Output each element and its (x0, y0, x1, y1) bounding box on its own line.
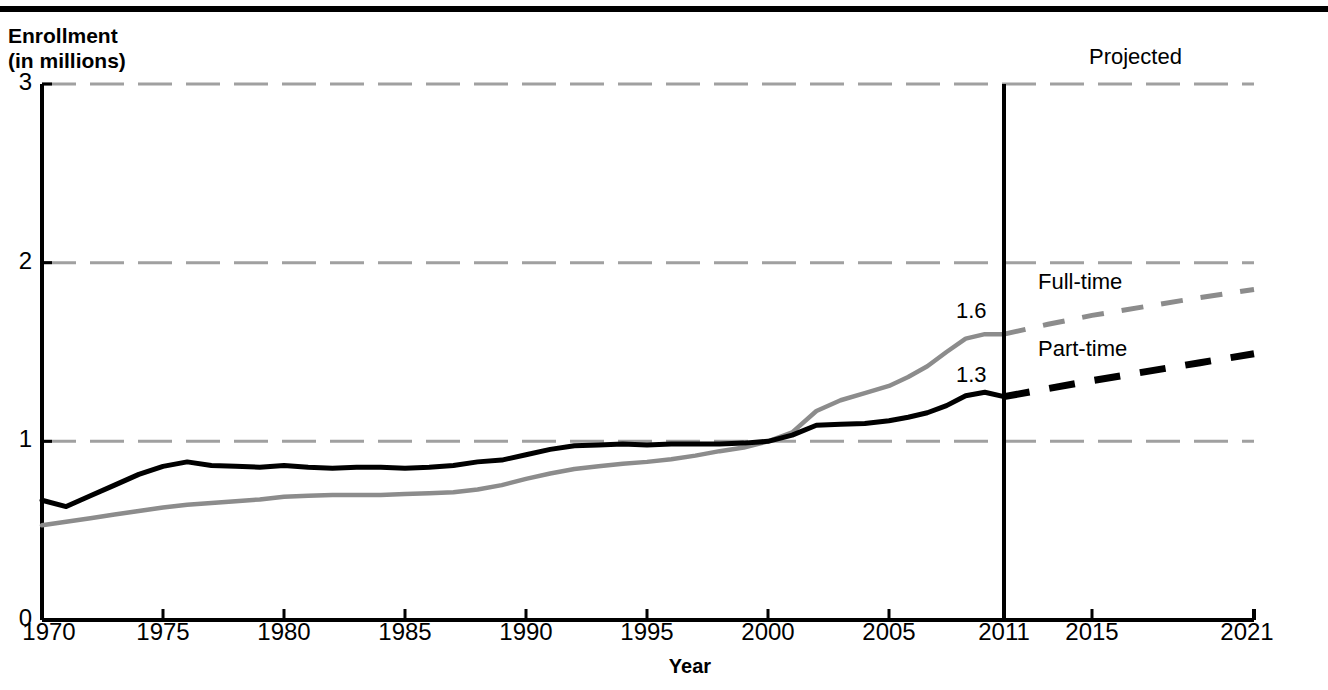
series-lines-group (42, 289, 1254, 525)
x-tick-label-1975: 1975 (118, 618, 208, 646)
data-label-full-time-2011: 1.6 (956, 298, 987, 324)
x-tick-label-2015: 2015 (1047, 618, 1137, 646)
x-tick-label-2011: 2011 (959, 618, 1049, 646)
series-projection-full-time (1004, 289, 1254, 334)
series-label-part-time: Part-time (1038, 336, 1127, 362)
y-tick-label-2: 2 (2, 247, 32, 275)
x-tick-label-1985: 1985 (360, 618, 450, 646)
projected-label: Projected (1089, 44, 1182, 70)
x-tick-label-1990: 1990 (481, 618, 571, 646)
x-tick-label-2021: 2021 (1202, 618, 1292, 646)
x-tick-label-2005: 2005 (844, 618, 934, 646)
chart-plot-area (0, 0, 1328, 690)
x-tick-label-1980: 1980 (239, 618, 329, 646)
x-tick-label-2000: 2000 (723, 618, 813, 646)
y-tick-label-1: 1 (2, 425, 32, 453)
series-label-full-time: Full-time (1038, 269, 1122, 295)
data-label-part-time-2011: 1.3 (956, 362, 987, 388)
y-tick-label-3: 3 (2, 68, 32, 96)
x-tick-label-1970: 1970 (4, 618, 94, 646)
series-line-part-time (42, 392, 1004, 506)
series-line-full-time (42, 334, 1004, 525)
x-tick-label-1995: 1995 (602, 618, 692, 646)
x-axis-title: Year (0, 655, 1328, 678)
chart-page: Enrollment(in millions) 0123 19701975198… (0, 0, 1328, 690)
